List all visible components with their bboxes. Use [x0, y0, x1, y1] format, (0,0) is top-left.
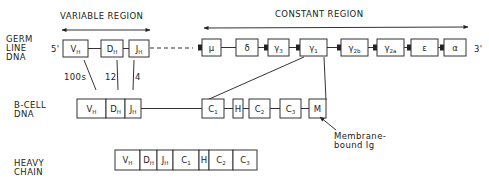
germline-vh-segment: VH: [63, 40, 88, 57]
three-prime-end-label: 3': [474, 44, 483, 54]
germline-gamma3-segment: γ3: [268, 39, 289, 56]
heavy-chain-c1-domain: C1: [173, 150, 199, 170]
switch-region-marker: [440, 45, 444, 51]
bcell-c2-exon: C2: [249, 99, 270, 118]
heavy-chain-jh-domain: JH: [157, 150, 173, 170]
bcell-c1-exon: C1: [202, 99, 224, 118]
constant-region-label: CONSTANT REGION: [275, 9, 363, 19]
five-prime-end-label: 5': [51, 44, 60, 54]
jh-count-label: 4: [135, 72, 141, 82]
bcell-m-exon: M: [309, 99, 326, 118]
membrane-pointer-arrow: [320, 117, 336, 130]
immunoglobulin-heavy-chain-diagram: VARIABLE REGION CONSTANT REGION GERM LIN…: [0, 0, 489, 190]
switch-region-marker: [337, 45, 341, 51]
bcell-dna-label: B-CELL DNA: [14, 100, 46, 119]
bcell-vh-segment: VH: [77, 99, 106, 118]
segment-label: δ: [244, 43, 249, 53]
germline-delta-segment: δ: [236, 39, 258, 56]
germline-gamma1-segment: γ1: [300, 39, 327, 56]
segment-label: H: [201, 155, 207, 165]
gamma1-to-c1-line: [207, 57, 304, 100]
heavy-chain-dh-domain: DH: [140, 150, 157, 170]
germline-mu-segment: μ: [202, 39, 221, 56]
variable-region-label: VARIABLE REGION: [60, 11, 143, 21]
rearrangement-lines: [84, 57, 326, 100]
germline-dna-label: GERM LINE DNA: [6, 34, 33, 62]
bcell-h-exon: H: [233, 99, 243, 118]
bcell-dna-segments: VHDHJHC1HC2C3M: [77, 99, 326, 118]
segment-label: ε: [422, 43, 427, 53]
heavy-chain-vh-domain: VH: [115, 150, 140, 170]
constant-region-arrow: [204, 27, 468, 28]
segment-label: α: [452, 43, 458, 53]
svg-text:bound Ig: bound Ig: [334, 140, 375, 150]
switch-region-marker: [264, 45, 268, 51]
heavy-chain-c2-domain: C2: [209, 150, 233, 170]
heavy-chain-h-domain: H: [199, 150, 209, 170]
germline-constant-segments: μδγ3γ1γ2bγ2aεα: [198, 39, 466, 56]
svg-text:DNA: DNA: [6, 52, 26, 62]
heavy-chain-label: HEAVY CHAIN: [14, 158, 44, 177]
bcell-jh-segment: JH: [125, 99, 141, 118]
switch-region-marker: [407, 45, 411, 51]
segment-label: μ: [209, 43, 215, 53]
svg-text:CHAIN: CHAIN: [14, 167, 43, 177]
switch-region-marker: [198, 45, 202, 51]
germline-gamma2a-segment: γ2a: [377, 39, 404, 56]
germline-alpha-segment: α: [444, 39, 466, 56]
dh-rearrangement-line: [117, 60, 118, 90]
germline-variable-segments: VHDHJH: [63, 40, 149, 57]
bcell-dh-segment: DH: [106, 99, 125, 118]
switch-region-marker: [373, 45, 377, 51]
germline-dh-segment: DH: [101, 40, 123, 57]
germline-gamma2b-segment: γ2b: [341, 39, 368, 56]
germline-epsilon-segment: ε: [411, 39, 438, 56]
vh-count-label: 100s: [64, 72, 86, 82]
gamma1-to-m-line: [324, 57, 326, 100]
heavy-chain-domains: VHDHJHC1HC2C3: [115, 150, 257, 170]
svg-text:DNA: DNA: [14, 109, 34, 119]
switch-region-marker: [296, 45, 300, 51]
heavy-chain-c3-domain: C3: [233, 150, 257, 170]
germline-jh-segment: JH: [129, 40, 149, 57]
segment-label: H: [235, 104, 241, 114]
segment-label: M: [314, 104, 321, 114]
dh-count-label: 12: [105, 72, 117, 82]
bcell-c3-exon: C3: [280, 99, 301, 118]
membrane-bound-ig-label: Membrane- bound Ig: [334, 131, 386, 150]
jh-rearrangement-line: [133, 60, 134, 90]
